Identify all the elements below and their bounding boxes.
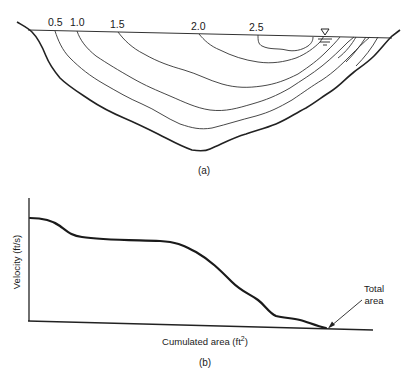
annotation-area: area bbox=[364, 295, 384, 306]
channel-bed-outline bbox=[17, 22, 400, 151]
isovel-right-1 bbox=[338, 37, 356, 58]
annotation-total: Total bbox=[364, 283, 384, 294]
contour-label-2.0: 2.0 bbox=[191, 20, 206, 32]
figure-canvas: 0.5 1.0 1.5 2.0 2.5 (a) Total area Veloc… bbox=[0, 0, 408, 374]
contour-label-2.5: 2.5 bbox=[249, 21, 264, 33]
contour-label-1.0: 1.0 bbox=[70, 16, 85, 28]
velocity-area-chart: Total area Velocity (ft/s) Cumulated are… bbox=[11, 198, 384, 368]
cross-section-diagram: 0.5 1.0 1.5 2.0 2.5 (a) bbox=[17, 16, 400, 176]
contour-label-1.5: 1.5 bbox=[110, 18, 125, 30]
water-surface-line bbox=[28, 30, 392, 38]
isovel-2.5 bbox=[258, 35, 313, 51]
x-axis-label: Cumulated area (ft2) bbox=[162, 335, 248, 347]
y-axis-label: Velocity (ft/s) bbox=[11, 235, 22, 289]
contour-label-0.5: 0.5 bbox=[48, 16, 63, 28]
velocity-curve bbox=[30, 218, 326, 328]
total-area-arrow bbox=[328, 300, 362, 329]
x-axis bbox=[28, 321, 373, 330]
isovel-1.5 bbox=[118, 32, 340, 87]
caption-b: (b) bbox=[199, 357, 211, 368]
caption-a: (a) bbox=[198, 165, 210, 176]
isovel-2.0 bbox=[199, 34, 324, 63]
isovel-1.0 bbox=[77, 31, 354, 111]
